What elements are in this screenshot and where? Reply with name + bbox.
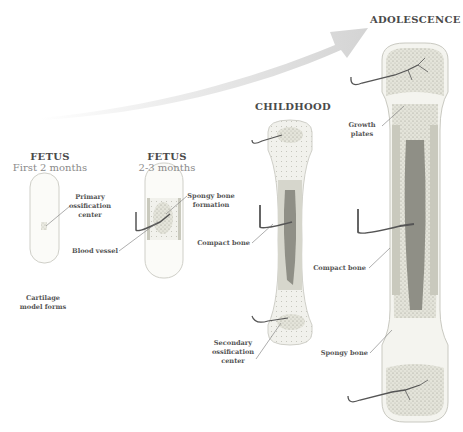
label-line: ossification: [208, 348, 258, 357]
label-line: formation: [186, 201, 236, 210]
label-line: Secondary: [208, 339, 258, 348]
bone-adolescence: [348, 43, 448, 422]
stage-title-childhood: CHILDHOOD: [248, 101, 338, 112]
label-line: Spongy bone: [186, 192, 236, 201]
bone-fetus-late: [119, 163, 187, 278]
stage-subtitle-fetus-late: 2-3 months: [117, 162, 217, 173]
label-spongy-bone-formation: Spongy bone formation: [186, 192, 236, 210]
label-cartilage-model: Cartilage model forms: [18, 294, 68, 312]
label-line: model forms: [18, 303, 68, 312]
label-growth-plates: Growth plates: [344, 121, 380, 139]
bone-childhood: [252, 120, 312, 359]
stage-title-fetus-early: FETUS: [10, 151, 90, 162]
stage-title-adolescence: ADOLESCENCE: [370, 14, 460, 25]
label-compact-bone-childhood: Compact bone: [192, 239, 250, 248]
label-line: center: [208, 357, 258, 366]
label-line: plates: [344, 130, 380, 139]
label-spongy-bone-adolescence: Spongy bone: [312, 349, 368, 358]
label-line: Growth: [344, 121, 380, 130]
label-line: ossification: [68, 202, 112, 211]
label-line: Primary: [68, 193, 112, 202]
label-line: Cartilage: [18, 294, 68, 303]
label-secondary-ossification-center: Secondary ossification center: [208, 339, 258, 366]
label-compact-bone-adolescence: Compact bone: [308, 264, 366, 273]
label-line: center: [68, 211, 112, 220]
stage-title-fetus-late: FETUS: [127, 151, 207, 162]
label-primary-ossification-center: Primary ossification center: [68, 193, 112, 220]
stage-subtitle-fetus-early: First 2 months: [0, 162, 100, 173]
label-blood-vessel: Blood vessel: [64, 247, 118, 256]
